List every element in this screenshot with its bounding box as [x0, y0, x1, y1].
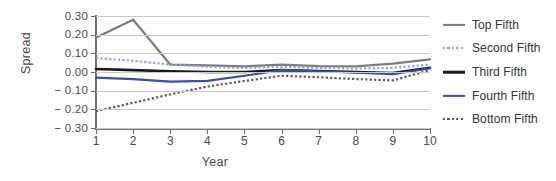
- legend-label-top-fifth: Top Fifth: [472, 18, 519, 32]
- gridline: [96, 91, 430, 92]
- x-tick-label: 4: [204, 134, 211, 148]
- x-tick-label: 6: [278, 134, 285, 148]
- gridline: [96, 109, 430, 110]
- spread-by-income-fifth-line-chart: Spread 0.300.200.100.00− 0.10− 0.20− 0.3…: [0, 0, 556, 181]
- y-tick-label: − 0.30: [36, 123, 88, 135]
- legend-swatch-top-fifth-icon: [443, 19, 465, 31]
- y-tick-mark: [91, 91, 96, 92]
- y-axis-title: Spread: [19, 5, 33, 101]
- x-tick-label: 5: [241, 134, 248, 148]
- legend-label-fourth-fifth: Fourth Fifth: [472, 89, 535, 103]
- x-tick-label: 1: [93, 134, 100, 148]
- y-tick-mark: [91, 72, 96, 73]
- y-axis-tick-labels: 0.300.200.100.00− 0.10− 0.20− 0.30: [36, 0, 88, 181]
- x-tick-label: 2: [130, 134, 137, 148]
- series-line-second-fifth: [96, 58, 430, 69]
- x-tick-label: 10: [423, 134, 436, 148]
- legend-label-bottom-fifth: Bottom Fifth: [472, 112, 538, 126]
- y-tick-mark: [91, 16, 96, 17]
- gridline: [96, 53, 430, 54]
- gridline: [96, 128, 430, 129]
- y-tick-mark: [91, 35, 96, 36]
- y-tick-label: − 0.10: [36, 85, 88, 97]
- y-tick-label: − 0.20: [36, 104, 88, 116]
- x-tick-label: 9: [390, 134, 397, 148]
- y-tick-label: 0.30: [36, 11, 88, 23]
- legend-item-second-fifth[interactable]: Second Fifth: [443, 37, 556, 61]
- y-tick-mark: [91, 53, 96, 54]
- legend-item-third-fifth[interactable]: Third Fifth: [443, 60, 556, 84]
- x-tick-label: 7: [315, 134, 322, 148]
- legend-swatch-third-fifth-icon: [443, 66, 465, 78]
- y-tick-label: 0.00: [36, 67, 88, 79]
- x-axis-tick-labels: 12345678910: [96, 134, 430, 154]
- gridline: [96, 35, 430, 36]
- legend-label-third-fifth: Third Fifth: [472, 65, 527, 79]
- plot-area: [96, 16, 430, 128]
- gridline: [96, 16, 430, 17]
- series-line-top-fifth: [96, 20, 430, 67]
- x-axis-title: Year: [0, 155, 430, 169]
- legend-item-fourth-fifth[interactable]: Fourth Fifth: [443, 84, 556, 108]
- legend-label-second-fifth: Second Fifth: [472, 41, 541, 55]
- x-tick-label: 8: [352, 134, 359, 148]
- legend-swatch-fourth-fifth-icon: [443, 90, 465, 102]
- legend-swatch-second-fifth-icon: [443, 42, 465, 54]
- legend-item-bottom-fifth[interactable]: Bottom Fifth: [443, 107, 556, 131]
- legend-swatch-bottom-fifth-icon: [443, 113, 465, 125]
- y-tick-label: 0.20: [36, 29, 88, 41]
- y-tick-label: 0.10: [36, 48, 88, 60]
- gridline: [96, 72, 430, 73]
- legend-item-top-fifth[interactable]: Top Fifth: [443, 13, 556, 37]
- chart-legend: Top FifthSecond FifthThird FifthFourth F…: [443, 13, 556, 131]
- y-tick-mark: [91, 109, 96, 110]
- x-tick-label: 3: [167, 134, 174, 148]
